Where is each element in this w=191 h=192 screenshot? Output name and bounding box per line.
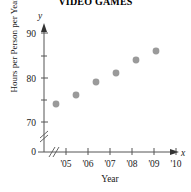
x-tick-label-05: '05	[60, 159, 71, 169]
video-games-scatter-chart: VIDEO GAMES y x 90 80 70 0	[0, 0, 191, 192]
data-point-series	[53, 48, 160, 108]
y-tick-label-80: 80	[27, 74, 37, 84]
x-tick-label-08: '08	[126, 159, 137, 169]
data-point-10	[153, 48, 160, 55]
data-point-07	[93, 79, 100, 86]
data-point-05	[53, 101, 60, 108]
x-tick-label-07: '07	[104, 159, 115, 169]
y-origin-label: 0	[31, 147, 36, 157]
y-axis-variable-label: y	[37, 11, 43, 21]
x-axis-variable-label: x	[180, 148, 186, 158]
x-axis-arrowhead	[170, 149, 179, 155]
plot-area: y x 90 80 70 0 '05 '06 '07 '08 '	[0, 0, 191, 192]
data-point-08	[113, 70, 120, 77]
data-point-06	[73, 92, 80, 99]
y-tick-label-70: 70	[27, 118, 37, 128]
x-tick-label-10: '10	[170, 159, 181, 169]
y-axis-arrowhead	[41, 23, 47, 32]
data-point-09	[133, 57, 140, 64]
y-axis-title: Hours per Person per Year	[9, 0, 19, 105]
y-tick-label-90: 90	[27, 29, 37, 39]
x-axis-title: Year	[45, 174, 175, 184]
x-tick-label-09: '09	[148, 159, 159, 169]
x-tick-label-06: '06	[82, 159, 93, 169]
